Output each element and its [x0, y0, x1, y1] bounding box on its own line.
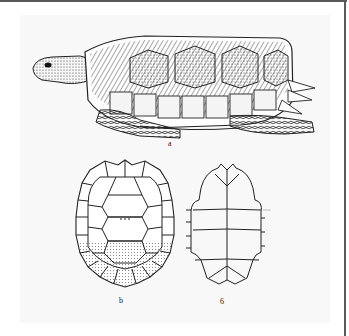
panel-label-c: 6	[220, 297, 224, 306]
frame-right-border	[344, 0, 346, 336]
plastron-diagram	[183, 160, 273, 290]
carapace-diagram	[70, 155, 180, 290]
turtle-lateral-illustration	[30, 30, 320, 140]
frame-top-border	[0, 0, 347, 2]
panel-label-b: b	[119, 296, 123, 305]
panel-label-a: a	[168, 139, 172, 148]
